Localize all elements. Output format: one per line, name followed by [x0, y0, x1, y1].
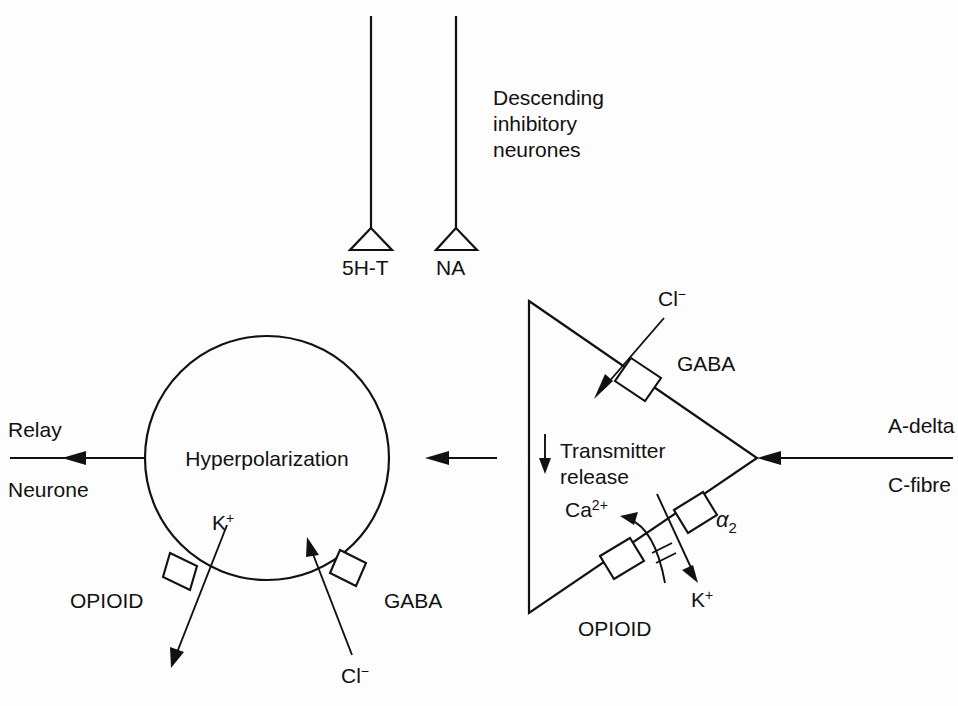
diagram-canvas: 5H-T NA Descending inhibitory neurones A…	[0, 0, 958, 706]
descending-caption-line1: Descending	[493, 86, 604, 109]
presynaptic-opioid-receptor-box	[600, 538, 644, 579]
postsynaptic-opioid-receptor-box	[163, 553, 197, 590]
presynaptic-alpha2-label: α2	[716, 507, 737, 536]
postsynaptic-cl-influx-arrowhead	[306, 537, 319, 557]
postsynaptic-k-efflux-arrow	[170, 525, 227, 668]
transmitter-release-arrowhead	[539, 458, 551, 474]
relay-output-arrow	[10, 451, 145, 465]
descending-neurone-na	[436, 16, 477, 250]
terminal-label-5ht: 5H-T	[342, 256, 389, 279]
descending-terminal-5ht-triangle	[350, 228, 392, 250]
synaptic-transmission-arrow	[425, 451, 497, 465]
afferent-fibre-arrow	[757, 451, 953, 465]
descending-caption-line3: neurones	[493, 138, 581, 161]
synaptic-transmission-arrowhead	[425, 451, 449, 465]
transmitter-release-line2: release	[560, 465, 629, 488]
postsynaptic-opioid-receptor	[163, 553, 197, 590]
relay-label-line1: Relay	[8, 418, 62, 441]
presynaptic-gaba-label: GABA	[677, 352, 735, 375]
descending-terminal-na-triangle	[436, 228, 477, 250]
relay-output-arrowhead	[62, 451, 86, 465]
presynaptic-k-label: K+	[691, 587, 713, 611]
postsynaptic-k-label: K+	[212, 510, 234, 534]
hyperpolarization-label: Hyperpolarization	[185, 447, 348, 470]
descending-caption-line2: inhibitory	[493, 112, 578, 135]
presynaptic-ca-label: Ca2+	[565, 497, 608, 521]
postsynaptic-gaba-receptor	[330, 550, 366, 586]
transmitter-release-line1: Transmitter	[560, 439, 665, 462]
postsynaptic-gaba-receptor-box	[330, 550, 366, 586]
postsynaptic-cl-label: Cl−	[341, 663, 369, 687]
presynaptic-alpha2-receptor	[674, 492, 717, 533]
descending-neurone-5ht	[350, 16, 392, 250]
presynaptic-alpha2-receptor-box	[674, 492, 717, 533]
postsynaptic-k-efflux-line	[176, 525, 227, 655]
transmitter-release-arrow	[539, 434, 551, 474]
neuro-pathway-diagram: 5H-T NA Descending inhibitory neurones A…	[0, 0, 958, 706]
presynaptic-opioid-label: OPIOID	[578, 617, 652, 640]
postsynaptic-gaba-label: GABA	[384, 589, 442, 612]
afferent-label-c-fibre: C-fibre	[888, 473, 951, 496]
presynaptic-opioid-receptor	[600, 538, 644, 579]
relay-label-line2: Neurone	[8, 478, 89, 501]
presynaptic-gaba-cl-arrowhead	[594, 374, 613, 399]
postsynaptic-opioid-label: OPIOID	[70, 589, 144, 612]
presynaptic-k-efflux-arrowhead	[682, 565, 698, 583]
postsynaptic-k-efflux-arrowhead	[170, 647, 184, 668]
afferent-fibre-arrowhead	[757, 451, 781, 465]
afferent-label-a-delta: A-delta	[888, 414, 955, 437]
terminal-label-na: NA	[436, 256, 465, 279]
presynaptic-cl-label: Cl−	[658, 286, 686, 310]
